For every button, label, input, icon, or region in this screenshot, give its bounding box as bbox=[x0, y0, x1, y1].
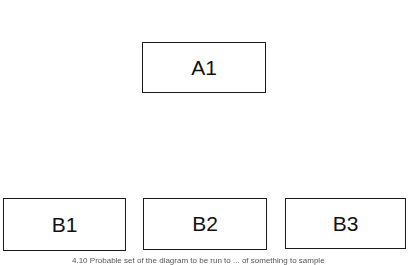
node-a1-label: A1 bbox=[191, 56, 217, 80]
figure-caption: 4.10 Probable set of the diagram to be r… bbox=[72, 256, 408, 265]
node-b1-label: B1 bbox=[52, 213, 78, 237]
node-b2-label: B2 bbox=[192, 212, 218, 236]
node-b1: B1 bbox=[3, 198, 126, 251]
node-b3: B3 bbox=[285, 198, 406, 249]
node-b2: B2 bbox=[143, 198, 267, 250]
node-b3-label: B3 bbox=[333, 212, 359, 236]
node-a1: A1 bbox=[142, 42, 266, 93]
